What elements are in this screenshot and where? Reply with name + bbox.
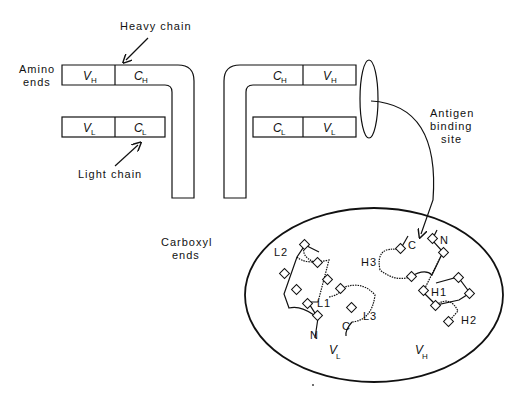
svg-text:H: H [142, 76, 148, 85]
light-chain-arrow [115, 145, 138, 166]
amino-ends-label-2: ends [23, 76, 51, 88]
right-ch-label: CH [273, 69, 287, 85]
left-light-chain [62, 117, 165, 137]
left-cl-label: CL [134, 121, 147, 137]
loop-l1-label: L1 [317, 297, 331, 309]
vh-structure [379, 230, 474, 326]
inset-vl-label: VL [329, 343, 341, 361]
svg-text:L: L [281, 128, 286, 137]
heavy-chain-arrow [126, 38, 148, 60]
svg-text:L: L [336, 352, 341, 361]
svg-text:L: L [91, 128, 96, 137]
antigen-label-3: site [441, 133, 462, 145]
loop-l2-label: L2 [274, 246, 288, 258]
inset-vh-label: VH [415, 343, 428, 361]
vh-n-terminus-label: N [440, 234, 449, 246]
vl-n-terminus-label: N [310, 329, 319, 341]
light-chain-label: Light chain [78, 168, 142, 180]
svg-text:H: H [91, 76, 97, 85]
amino-ends-label-1: Amino [19, 63, 55, 75]
svg-text:H: H [422, 352, 428, 361]
antibody-diagram: Heavy chain Light chain Amino ends Carbo… [0, 0, 521, 400]
antigen-site-ellipse [360, 60, 378, 138]
svg-text:H: H [331, 76, 337, 85]
antigen-label-2: binding [430, 120, 472, 132]
vh-c-terminus-label: C [408, 239, 417, 251]
right-light-chain [253, 117, 356, 137]
variable-domain-inset [245, 208, 503, 382]
carboxyl-ends-label-2: ends [172, 249, 200, 261]
right-cl-label: CL [273, 121, 286, 137]
heavy-chain-label: Heavy chain [120, 20, 192, 32]
svg-text:H: H [281, 76, 287, 85]
svg-text:L: L [142, 128, 147, 137]
carboxyl-ends-label-1: Carboxyl [161, 236, 212, 248]
left-vh-label: VH [83, 69, 97, 85]
loop-h1-label: H1 [431, 286, 447, 298]
left-ch-label: CH [134, 69, 148, 85]
vl-c-terminus-label: C [342, 320, 351, 332]
right-vh-label: VH [323, 69, 337, 85]
left-vl-label: VL [83, 121, 96, 137]
loop-h2-label: H2 [461, 314, 477, 326]
loop-l3-label: L3 [363, 310, 377, 322]
right-vl-label: VL [323, 121, 336, 137]
loop-h3-label: H3 [361, 256, 377, 268]
svg-text:L: L [331, 128, 336, 137]
antigen-label-1: Antigen [430, 107, 474, 119]
